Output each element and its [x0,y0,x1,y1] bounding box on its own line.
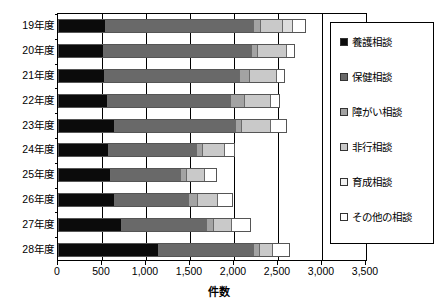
bar-segment-保健相談 [121,219,205,231]
stacked-bar-22年度 [58,94,280,108]
y-axis-labels: 19年度20年度21年度22年度23年度24年度25年度26年度27年度28年度 [4,13,56,261]
bar-segment-障がい相談 [253,20,260,32]
bar-segment-非行相談 [244,95,270,107]
bar-row [58,243,368,257]
bar-segment-障がい相談 [188,194,197,206]
y-axis-tick [55,212,58,213]
stacked-bar-chart: 19年度20年度21年度22年度23年度24年度25年度26年度27年度28年度… [0,0,438,306]
y-axis-label-20年度: 20年度 [22,44,54,56]
bar-row [58,168,368,182]
legend-item-育成相談[interactable]: 育成相談 [340,175,392,189]
plot-area [57,13,367,261]
y-axis-tick [55,14,58,15]
bar-segment-保健相談 [103,45,251,57]
bar-segment-その他の相談 [270,95,279,107]
legend-item-養護相談[interactable]: 養護相談 [340,35,392,49]
stacked-bar-20年度 [58,44,295,58]
bar-segment-養護相談 [59,194,114,206]
y-axis-tick [55,39,58,40]
bar-segment-養護相談 [59,95,107,107]
bar-segment-保健相談 [158,244,252,256]
x-axis-tick-label-1000: 1,000 [132,264,158,278]
bar-row [58,69,368,83]
bar-segment-非行相談 [213,219,231,231]
y-axis-label-21年度: 21年度 [22,69,54,81]
bar-row [58,94,368,108]
bar-segment-保健相談 [104,70,239,82]
legend-swatch-yogo [340,38,348,46]
bar-segment-非行相談 [241,120,270,132]
legend-label: 非行相談 [352,140,392,154]
x-axis-tick-labels: 05001,0001,5002,0002,5003,0003,500 [0,264,438,280]
bar-segment-その他の相談 [286,45,294,57]
legend-item-障がい相談[interactable]: 障がい相談 [340,105,402,119]
plot-inner [58,14,366,260]
bar-segment-その他の相談 [224,144,235,156]
stacked-bar-24年度 [58,143,235,157]
y-axis-tick [55,188,58,189]
x-axis-tick-label-2000: 2,000 [220,264,246,278]
legend-item-その他の相談[interactable]: その他の相談 [340,210,412,224]
x-axis-tick-label-3500: 3,500 [352,264,378,278]
y-axis-label-25年度: 25年度 [22,168,54,180]
bar-segment-その他の相談 [270,120,286,132]
x-axis-tick-label-500: 500 [92,264,110,278]
bar-segment-養護相談 [59,45,103,57]
legend-item-保健相談[interactable]: 保健相談 [340,70,392,84]
legend-label: 障がい相談 [352,105,402,119]
legend-swatch-hiko [340,143,348,151]
bar-segment-障がい相談 [206,219,213,231]
bar-segment-保健相談 [105,20,253,32]
y-axis-label-24年度: 24年度 [22,143,54,155]
legend-swatch-ikusei [340,178,348,186]
bar-segment-その他の相談 [204,169,215,181]
bar-segment-非行相談 [197,194,216,206]
legend-label: その他の相談 [352,210,412,224]
bar-segment-非行相談 [202,144,224,156]
bar-segment-障がい相談 [230,95,244,107]
bar-segment-養護相談 [59,120,114,132]
legend-label: 保健相談 [352,70,392,84]
bar-row [58,218,368,232]
bar-segment-非行相談 [259,244,272,256]
bar-row [58,119,368,133]
bar-segment-非行相談 [257,45,286,57]
bar-segment-障がい相談 [239,70,250,82]
legend-item-非行相談[interactable]: 非行相談 [340,140,392,154]
y-axis-label-22年度: 22年度 [22,94,54,106]
bar-segment-保健相談 [110,169,180,181]
y-axis-label-23年度: 23年度 [22,119,54,131]
bar-segment-養護相談 [59,70,104,82]
stacked-bar-27年度 [58,218,251,232]
bar-segment-保健相談 [108,144,196,156]
y-axis-tick [55,88,58,89]
stacked-bar-23年度 [58,119,287,133]
bar-segment-その他の相談 [272,244,289,256]
y-axis-tick [55,64,58,65]
x-axis-tick-label-1500: 1,500 [176,264,202,278]
bar-row [58,44,368,58]
y-axis-tick [55,138,58,139]
bar-segment-養護相談 [59,20,105,32]
bar-segment-保健相談 [114,194,188,206]
bar-segment-その他の相談 [217,194,233,206]
legend-swatch-sonota [340,213,348,221]
y-axis-label-27年度: 27年度 [22,218,54,230]
bar-segment-その他の相談 [292,20,305,32]
bar-segment-非行相談 [186,169,204,181]
y-axis-label-19年度: 19年度 [22,19,54,31]
bar-segment-育成相談 [282,20,292,32]
x-axis-tick-label-2500: 2,500 [264,264,290,278]
bar-segment-その他の相談 [231,219,250,231]
y-axis-label-28年度: 28年度 [22,243,54,255]
stacked-bar-26年度 [58,193,233,207]
y-axis-tick [55,163,58,164]
legend-label: 養護相談 [352,35,392,49]
x-axis-tick-label-0: 0 [54,264,60,278]
bar-row [58,19,368,33]
bar-segment-養護相談 [59,169,110,181]
y-axis-tick [55,113,58,114]
stacked-bar-19年度 [58,19,306,33]
y-axis-tick [55,237,58,238]
bar-segment-非行相談 [249,70,276,82]
